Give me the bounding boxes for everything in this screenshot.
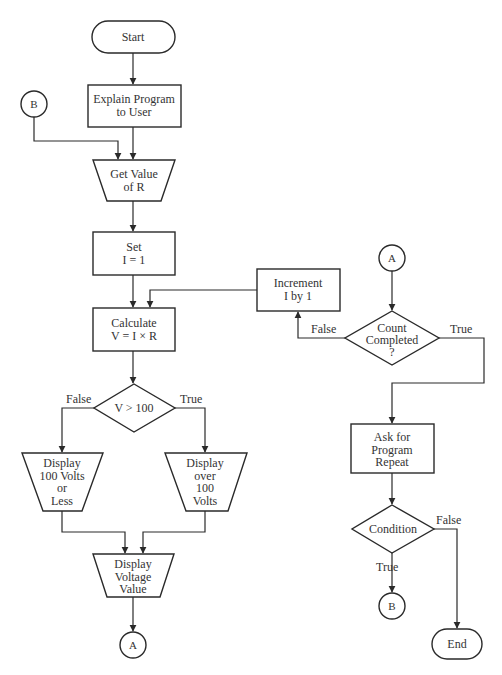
- node-label-line: Repeat: [375, 455, 409, 469]
- edge-label-v-true: True: [180, 392, 202, 406]
- node-label-line: I = 1: [123, 253, 146, 267]
- node-explain-program: Explain Programto User: [88, 85, 181, 127]
- node-label-line: B: [30, 98, 37, 110]
- edge-label-cond-true: True: [376, 560, 398, 574]
- node-label-line: Explain Program: [93, 92, 175, 106]
- node-label-line: Calculate: [111, 316, 156, 330]
- edge-label-count-false: False: [311, 322, 336, 336]
- node-label-line: Start: [122, 30, 145, 44]
- node-label-line: of R: [124, 180, 145, 194]
- edge-label-count-true: True: [450, 322, 472, 336]
- node-condition: Condition: [352, 505, 434, 553]
- node-connector-a-out: A: [120, 632, 146, 658]
- node-label: B: [30, 98, 37, 110]
- node-label: A: [388, 252, 396, 264]
- node-connector-b-in: B: [21, 91, 47, 117]
- edge-v-false-to-display-low: [62, 408, 94, 452]
- edge-label-v-false: False: [66, 392, 91, 406]
- node-label-line: End: [447, 637, 466, 651]
- node-label-line: Volts: [193, 494, 218, 508]
- node-label-line: ?: [389, 345, 394, 359]
- node-connector-b-out: B: [379, 593, 405, 619]
- node-label-line: Increment: [274, 276, 323, 290]
- edge-display-high-to-voltage: [143, 511, 205, 553]
- node-label: DisplayVoltageValue: [114, 557, 151, 596]
- node-label: CalculateV = I × R: [111, 316, 157, 343]
- node-label-line: Value: [119, 582, 146, 596]
- node-get-value: Get Valueof R: [93, 160, 175, 201]
- node-display-voltage: DisplayVoltageValue: [93, 554, 174, 597]
- edge-condition-false-to-end: [434, 529, 457, 628]
- node-label-line: I by 1: [284, 289, 312, 303]
- node-set-i: SetI = 1: [93, 232, 175, 275]
- node-end: End: [432, 629, 482, 659]
- node-label-line: Get Value: [110, 167, 157, 181]
- node-label-line: A: [388, 252, 396, 264]
- edge-v-true-to-display-high: [175, 408, 205, 452]
- node-label: A: [129, 639, 137, 651]
- node-label-line: V > 100: [114, 401, 153, 415]
- node-label-line: Less: [51, 494, 73, 508]
- node-v-check: V > 100: [94, 384, 175, 432]
- node-label-line: Set: [126, 240, 142, 254]
- edge-display-low-to-voltage: [62, 511, 125, 553]
- node-ask-repeat: Ask forProgramRepeat: [351, 424, 434, 473]
- node-label: End: [447, 637, 466, 651]
- node-display-low: Display100 VoltsorLess: [22, 453, 103, 511]
- node-label: V > 100: [114, 401, 153, 415]
- flowchart: False True False True True False Start E…: [0, 0, 502, 675]
- node-label: Start: [122, 30, 145, 44]
- node-label: B: [388, 600, 395, 612]
- node-start: Start: [92, 21, 175, 53]
- node-label-line: to User: [117, 105, 152, 119]
- node-increment: IncrementI by 1: [257, 269, 340, 311]
- node-calculate: CalculateV = I × R: [93, 308, 175, 351]
- node-count-check: CountCompleted?: [345, 311, 439, 365]
- node-label: Ask forProgramRepeat: [371, 430, 413, 469]
- edge-increment-to-calculate: [150, 290, 257, 307]
- node-display-high: Displayover100Volts: [165, 453, 247, 511]
- node-label: Condition: [369, 522, 417, 536]
- edge-label-cond-false: False: [436, 513, 461, 527]
- node-connector-a-in: A: [379, 245, 405, 271]
- node-label-line: B: [388, 600, 395, 612]
- node-label-line: A: [129, 639, 137, 651]
- node-label-line: V = I × R: [111, 329, 157, 343]
- figure-caption: [22, 664, 322, 674]
- node-label-line: Condition: [369, 522, 417, 536]
